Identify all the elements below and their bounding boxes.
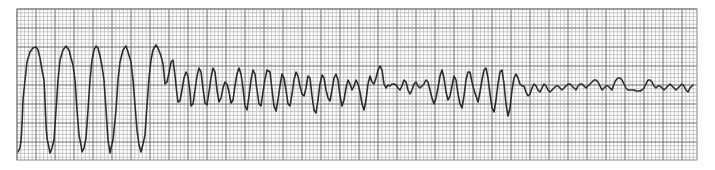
ecg-rhythm-strip: [0, 0, 715, 170]
